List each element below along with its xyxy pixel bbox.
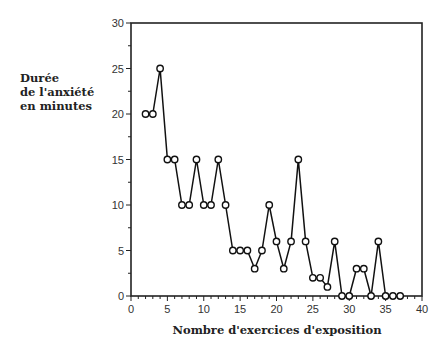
line-chart: 0510152025303540051015202530 — [0, 0, 446, 350]
y-tick-label: 20 — [112, 108, 124, 120]
data-point-marker — [222, 202, 228, 208]
data-point-marker — [397, 293, 403, 299]
y-tick-label: 15 — [112, 154, 124, 166]
x-tick-label: 25 — [307, 303, 319, 315]
data-point-marker — [179, 202, 185, 208]
data-point-marker — [150, 111, 156, 117]
data-point-marker — [281, 266, 287, 272]
data-point-marker — [382, 293, 388, 299]
data-point-marker — [332, 238, 338, 244]
x-tick-label: 30 — [343, 303, 355, 315]
data-point-marker — [295, 156, 301, 162]
series-line — [146, 69, 401, 297]
data-point-marker — [193, 156, 199, 162]
x-tick-label: 5 — [164, 303, 170, 315]
data-point-marker — [266, 202, 272, 208]
y-tick-label: 5 — [118, 245, 124, 257]
data-point-marker — [346, 293, 352, 299]
x-tick-label: 15 — [234, 303, 246, 315]
data-point-marker — [164, 156, 170, 162]
axis-ticks: 0510152025303540051015202530 — [112, 17, 428, 315]
y-tick-label: 25 — [112, 63, 124, 75]
data-point-marker — [390, 293, 396, 299]
x-tick-label: 40 — [416, 303, 428, 315]
data-point-marker — [171, 156, 177, 162]
x-tick-label: 35 — [380, 303, 392, 315]
y-tick-label: 30 — [112, 17, 124, 29]
data-point-marker — [368, 293, 374, 299]
data-point-marker — [302, 238, 308, 244]
data-point-marker — [310, 275, 316, 281]
data-point-marker — [375, 238, 381, 244]
y-tick-label: 0 — [118, 290, 124, 302]
data-point-marker — [361, 266, 367, 272]
data-point-marker — [157, 65, 163, 71]
data-point-marker — [324, 284, 330, 290]
data-point-marker — [251, 266, 257, 272]
y-tick-label: 10 — [112, 199, 124, 211]
data-point-marker — [208, 202, 214, 208]
data-point-marker — [186, 202, 192, 208]
data-point-marker — [273, 238, 279, 244]
data-point-marker — [230, 247, 236, 253]
data-point-marker — [317, 275, 323, 281]
data-point-marker — [339, 293, 345, 299]
x-tick-label: 10 — [198, 303, 210, 315]
data-point-marker — [244, 247, 250, 253]
data-series — [142, 65, 403, 299]
data-point-marker — [259, 247, 265, 253]
data-point-marker — [288, 238, 294, 244]
data-point-marker — [353, 266, 359, 272]
data-point-marker — [142, 111, 148, 117]
x-tick-label: 20 — [270, 303, 282, 315]
data-point-marker — [237, 247, 243, 253]
x-axis-label: Nombre d'exercices d'exposition — [0, 323, 446, 337]
data-point-marker — [215, 156, 221, 162]
x-tick-label: 0 — [128, 303, 134, 315]
data-point-marker — [201, 202, 207, 208]
